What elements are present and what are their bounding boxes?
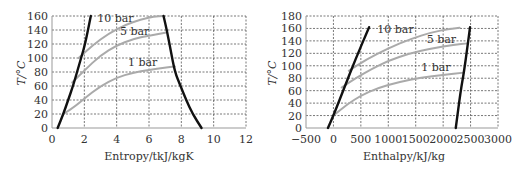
y-axis-label: T/°C <box>15 60 28 86</box>
x-tick-label: 6 <box>146 133 153 146</box>
y-tick-label: 140 <box>27 24 48 37</box>
y-tick-label: 100 <box>281 60 302 73</box>
y-tick-label: 40 <box>288 97 302 110</box>
x-axis-label: Enthalpy/kJ/kg <box>363 150 445 163</box>
x-tick-label: 1000 <box>374 133 402 146</box>
x-tick-label: 3000 <box>484 133 512 146</box>
x-tick-label: 12 <box>239 133 253 146</box>
isobar-label: 10 bar <box>97 12 134 25</box>
isobar-label: 5 bar <box>120 25 150 38</box>
x-tick-label: 4 <box>113 133 120 146</box>
y-axis-label: T/°C <box>266 60 279 86</box>
y-tick-label: 120 <box>281 47 302 60</box>
saturated-liquid-line <box>328 27 369 128</box>
isobar-label: 1 bar <box>128 56 158 69</box>
charts-svg: 024681012020406080100120140160 Entropy/t… <box>0 0 524 175</box>
isobar-label: 5 bar <box>427 33 457 46</box>
x-tick-label: 0 <box>330 133 337 146</box>
x-tick-label: 0 <box>49 133 56 146</box>
y-tick-label: 180 <box>281 10 302 23</box>
x-tick-label: 1500 <box>402 133 430 146</box>
x-tick-label: 2000 <box>429 133 457 146</box>
y-tick-label: 160 <box>281 22 302 35</box>
y-tick-label: 100 <box>27 52 48 65</box>
y-tick-label: 160 <box>27 10 48 23</box>
y-tick-label: 40 <box>34 94 48 107</box>
x-tick-label: 2 <box>81 133 88 146</box>
x-tick-label: 500 <box>350 133 371 146</box>
y-tick-label: 0 <box>41 122 48 135</box>
y-tick-label: 20 <box>288 110 302 123</box>
y-tick-label: 60 <box>34 80 48 93</box>
entropy-temperature-chart: 024681012020406080100120140160 Entropy/t… <box>15 10 253 163</box>
y-tick-label: 80 <box>34 66 48 79</box>
isobar-label: 10 bar <box>377 23 414 36</box>
y-tick-label: 0 <box>295 122 302 135</box>
y-tick-label: 80 <box>288 72 302 85</box>
y-tick-label: 20 <box>34 108 48 121</box>
x-tick-label: 8 <box>178 133 185 146</box>
x-tick-label: 10 <box>207 133 221 146</box>
x-tick-label: 2500 <box>457 133 485 146</box>
y-tick-label: 140 <box>281 35 302 48</box>
isobar-label: 1 bar <box>421 61 451 74</box>
x-axis-label: Entropy/tkJ/kgK <box>104 150 194 163</box>
enthalpy-temperature-chart: −500050010001500200025003000020406080100… <box>266 10 512 163</box>
y-tick-label: 60 <box>288 85 302 98</box>
y-tick-label: 120 <box>27 38 48 51</box>
saturated-vapour-line <box>456 27 470 128</box>
